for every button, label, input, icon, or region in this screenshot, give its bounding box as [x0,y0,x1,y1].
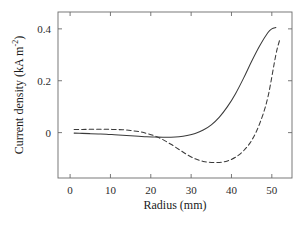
y-axis-title-suffix: ) [12,36,26,40]
figure-container: 01020304050 00.20.4 Radius (mm) Current … [0,0,308,227]
data-series-group [74,28,280,163]
series-line-solid [74,28,276,138]
plot-frame [58,12,292,178]
series-line-dashed [74,39,280,162]
x-tick-label: 0 [67,185,73,196]
x-tick-label: 30 [186,185,197,196]
x-axis-title: Radius (mm) [144,198,207,213]
x-tick-label: 20 [145,185,156,196]
x-tick-label: 40 [226,185,237,196]
x-tick-label: 10 [105,185,116,196]
y-axis-title-prefix: Current density (kA m [12,47,26,155]
x-tick-label: 50 [266,185,277,196]
y-axis-ticks [58,29,292,133]
y-axis-title-exponent: -2 [11,40,20,47]
y-axis-title: Current density (kA m-2) [12,36,27,154]
axes-frame [58,12,292,178]
